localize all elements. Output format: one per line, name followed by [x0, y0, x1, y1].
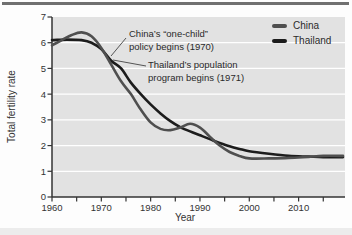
y-axis-title: Total fertility rate [6, 52, 17, 162]
x-tick-label: 2010 [288, 202, 309, 213]
y-tick-label: 7 [41, 11, 46, 22]
x-tick-label: 1960 [41, 202, 62, 213]
y-tick-label: 0 [41, 191, 46, 202]
y-tick-label: 2 [41, 140, 46, 151]
y-tick-label: 6 [41, 37, 46, 48]
y-tick-label: 1 [41, 166, 46, 177]
x-axis-title: Year [155, 212, 215, 223]
legend-label-china: China [293, 20, 319, 31]
x-tick-label: 1970 [91, 202, 112, 213]
thailand-line-swatch-icon [272, 39, 287, 43]
figure-bottom-strip [0, 228, 352, 235]
china-line-swatch-icon [272, 24, 287, 28]
legend-label-thailand: Thailand [293, 35, 331, 46]
y-tick-label: 5 [41, 63, 46, 74]
y-tick-label: 4 [41, 89, 46, 100]
legend-item-thailand: Thailand [272, 35, 331, 46]
legend-item-china: China [272, 20, 331, 31]
annotation-china-policy: China’s “one-child” policy begins (1970) [129, 27, 214, 53]
y-tick-label: 3 [41, 114, 46, 125]
fertility-rate-figure: 01234567196019701980199020002010 China T… [0, 0, 352, 235]
annotation-thailand-line2: program begins (1971) [148, 71, 244, 84]
annotation-china-line1: China’s “one-child” [129, 27, 214, 40]
x-tick-label: 2000 [239, 202, 260, 213]
annotation-thailand-line1: Thailand’s population [148, 58, 244, 71]
chart-legend: China Thailand [272, 20, 331, 46]
annotation-thailand-program: Thailand’s population program begins (19… [148, 58, 244, 84]
annotation-china-line2: policy begins (1970) [129, 40, 214, 53]
